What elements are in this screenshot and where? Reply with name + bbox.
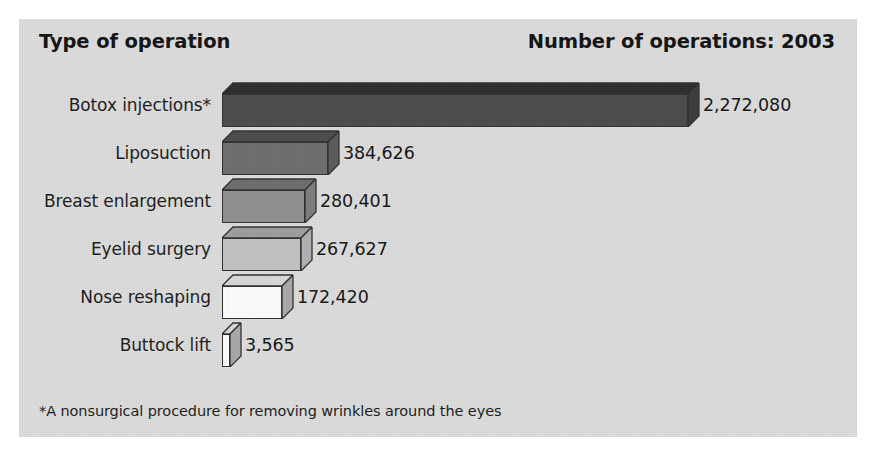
chart-category-label: Liposuction	[115, 143, 211, 163]
chart-bar-side-face	[687, 83, 700, 127]
chart-value-label: 2,272,080	[703, 95, 791, 115]
chart-value-label: 280,401	[320, 191, 392, 211]
chart-bar-row: Eyelid surgery267,627	[19, 225, 857, 273]
chart-bar-front-face	[222, 142, 328, 175]
chart-bar-row: Buttock lift3,565	[19, 321, 857, 369]
chart-category-label: Breast enlargement	[44, 191, 211, 211]
chart-bar-row: Liposuction384,626	[19, 129, 857, 177]
chart-bar-side-face	[229, 323, 242, 367]
chart-bar-row: Nose reshaping172,420	[19, 273, 857, 321]
chart-bar-front-face	[222, 190, 305, 223]
chart-bar-front-face	[222, 94, 688, 127]
chart-footnote: *A nonsurgical procedure for removing wr…	[39, 403, 501, 419]
chart-bar-front-face	[222, 334, 230, 367]
chart-value-label: 384,626	[343, 143, 415, 163]
chart-bar-row: Breast enlargement280,401	[19, 177, 857, 225]
chart-bar-side-face	[300, 227, 313, 271]
chart-bar-front-face	[222, 286, 282, 319]
chart-bar[interactable]	[222, 275, 293, 319]
chart-bar[interactable]	[222, 323, 241, 367]
chart-bar[interactable]	[222, 83, 699, 127]
chart-category-label: Botox injections*	[69, 95, 211, 115]
chart-bar[interactable]	[222, 179, 316, 223]
chart-bar[interactable]	[222, 227, 312, 271]
chart-plot-area: Botox injections*2,272,080Liposuction384…	[19, 81, 857, 376]
chart-bar-side-face	[281, 275, 294, 319]
chart-bar-side-face	[304, 179, 317, 223]
chart-bar[interactable]	[222, 131, 339, 175]
chart-value-label: 267,627	[316, 239, 388, 259]
chart-panel: Type of operation Number of operations: …	[19, 19, 857, 437]
chart-bar-row: Botox injections*2,272,080	[19, 81, 857, 129]
chart-category-label: Nose reshaping	[80, 287, 211, 307]
chart-category-label: Buttock lift	[120, 335, 211, 355]
chart-axis-title-category: Type of operation	[39, 30, 230, 53]
chart-bar-side-face	[327, 131, 340, 175]
chart-category-label: Eyelid surgery	[91, 239, 211, 259]
chart-bar-front-face	[222, 238, 301, 271]
chart-title: Number of operations: 2003	[528, 30, 835, 53]
chart-value-label: 3,565	[245, 335, 295, 355]
chart-header: Type of operation Number of operations: …	[19, 30, 857, 64]
chart-value-label: 172,420	[297, 287, 369, 307]
